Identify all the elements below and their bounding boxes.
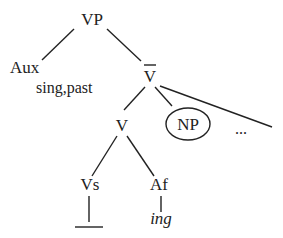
edge-v-vs (92, 136, 117, 176)
syntax-tree-diagram: VP Aux sing,past V V NP ... Vs Af ing (0, 0, 283, 238)
node-vs: Vs (81, 175, 100, 194)
node-af: Af (150, 175, 168, 194)
node-ing: ing (150, 209, 172, 228)
edge-vbar-v (124, 87, 145, 110)
edge-vp-vbar (107, 29, 141, 61)
node-ellipsis: ... (235, 120, 247, 137)
edge-vp-aux (42, 29, 74, 60)
node-aux: Aux (10, 58, 40, 77)
node-np: NP (177, 115, 199, 134)
node-vbar: V (144, 67, 157, 86)
edge-v-af (127, 136, 154, 176)
node-vp: VP (81, 10, 103, 29)
aux-features: sing,past (36, 79, 93, 97)
node-v: V (116, 116, 129, 135)
